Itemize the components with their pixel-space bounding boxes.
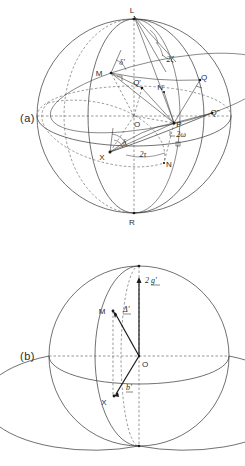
panel-b-label-group-2g-prime: 2 g'	[145, 276, 160, 285]
panel-b-lower-right-arc	[139, 356, 245, 450]
panel-a-dot-R	[133, 212, 136, 215]
panel-a-angle-delta: δ	[122, 138, 126, 147]
panel-a-label-R: R	[129, 218, 135, 227]
panel-a-chord-qprime-p	[142, 88, 174, 123]
panel-a: (a)	[20, 6, 245, 227]
panel-a-ray-x-up	[110, 128, 113, 152]
panel-a-angle-delta-prime: δ'	[119, 58, 125, 67]
panel-a-tag: (a)	[20, 112, 35, 124]
panel-b-vector-o-m	[115, 313, 139, 356]
panel-a-angle-two-zeta: 2ζ	[166, 55, 174, 64]
panel-b-dot-O	[138, 355, 140, 357]
panel-a-dot-Qprime	[141, 87, 144, 90]
panel-b: (b) M O X	[0, 265, 245, 451]
panel-b-label-2g-prime: 2 g'	[145, 276, 157, 285]
panel-a-label-L: L	[130, 6, 135, 15]
panel-b-label-O: O	[142, 360, 148, 369]
panel-a-dot-P	[173, 122, 176, 125]
panel-a-label-P: P	[176, 120, 181, 129]
panel-b-label-group-b-prime: b'	[126, 383, 133, 392]
panel-a-label-M: M	[96, 69, 103, 78]
panel-a-dot-L	[133, 18, 136, 21]
panel-a-angle-two-tau: 2τ	[140, 150, 148, 159]
panel-b-label-delta-prime: Δ'	[122, 305, 130, 314]
panel-a-right-angle-p	[170, 131, 175, 136]
panel-b-label-M: M	[99, 307, 106, 316]
panel-b-lower-left-arc	[0, 356, 139, 450]
panel-b-label-X: X	[101, 398, 107, 407]
panel-b-dot-X	[113, 395, 116, 398]
panel-b-dot-bottom-pole	[138, 445, 141, 448]
panel-a-back-ellipse-upper	[48, 100, 165, 163]
panel-a-dot-N	[163, 162, 165, 164]
panel-a-label-N-prime: N'	[157, 83, 165, 92]
panel-a-label-X: X	[99, 153, 105, 162]
panel-a-label-Q-double-prime: Q"	[210, 108, 219, 117]
panel-b-label-b-prime: b'	[126, 383, 132, 392]
panel-a-label-Q-prime: Q'	[133, 78, 141, 87]
panel-a-radius-o-m	[111, 73, 134, 116]
panel-a-label-Q: Q	[201, 73, 207, 82]
panel-a-inclined-circle-front	[50, 73, 212, 133]
panel-b-arrowhead-2g-prime	[137, 277, 142, 283]
panel-b-label-group-delta-prime: Δ'	[122, 305, 131, 314]
panel-a-ray-l-2zeta-b	[134, 16, 166, 72]
panel-a-dot-X	[109, 151, 112, 154]
panel-a-label-O: O	[134, 120, 140, 129]
panel-a-dot-M	[110, 72, 113, 75]
panel-b-dot-top-pole	[138, 265, 141, 268]
panel-a-label-N: N	[166, 160, 172, 169]
spherical-projection-figure: (a)	[0, 0, 245, 466]
panel-a-angle-two-omega: 2ω	[176, 130, 186, 139]
panel-a-chord-p-n	[164, 123, 174, 163]
panel-a-chord-x-p	[110, 123, 174, 152]
panel-b-dot-M	[112, 310, 115, 313]
